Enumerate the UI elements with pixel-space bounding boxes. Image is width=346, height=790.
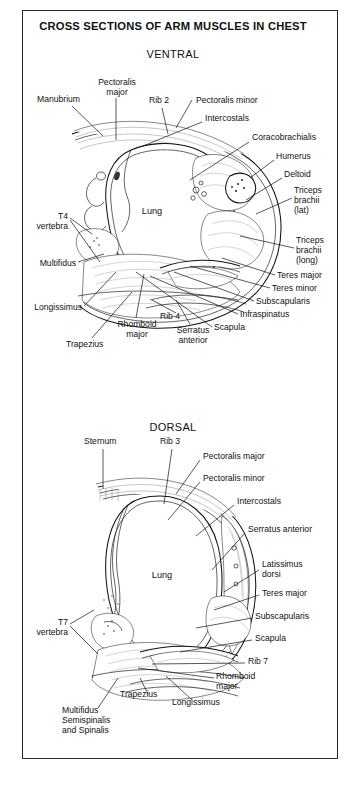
- dorsal-lung-text: Lung: [152, 570, 172, 580]
- figure-page: CROSS SECTIONS OF ARM MUSCLES IN CHEST V…: [0, 0, 346, 790]
- dorsal-organ-label: Lung: [0, 0, 346, 790]
